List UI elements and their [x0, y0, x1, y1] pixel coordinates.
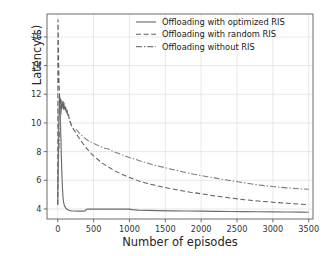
- svg-text:4: 4: [36, 204, 41, 214]
- figure-container: 050010001500200025003000350046810121416 …: [0, 0, 328, 256]
- chart-canvas: 050010001500200025003000350046810121416 …: [0, 0, 328, 256]
- svg-text:3000: 3000: [262, 224, 283, 234]
- svg-text:8: 8: [36, 147, 41, 157]
- svg-text:2500: 2500: [227, 224, 248, 234]
- svg-text:1500: 1500: [155, 224, 176, 234]
- series-line-2: [58, 101, 309, 189]
- svg-text:500: 500: [86, 224, 102, 234]
- svg-text:3500: 3500: [298, 224, 319, 234]
- svg-text:0: 0: [55, 224, 60, 234]
- tick-labels: 050010001500200025003000350046810121416: [31, 32, 319, 234]
- legend-label-2: Offloading without RIS: [162, 42, 255, 52]
- y-axis-label: Latency(s): [30, 0, 44, 120]
- legend-label-1: Offloading with random RIS: [162, 29, 276, 39]
- series-line-0: [58, 96, 309, 213]
- svg-text:2000: 2000: [191, 224, 212, 234]
- svg-text:1000: 1000: [119, 224, 140, 234]
- legend: Offloading with optimized RISOffloading …: [136, 17, 285, 52]
- legend-label-0: Offloading with optimized RIS: [162, 17, 285, 27]
- tick-marks: [44, 37, 309, 222]
- x-axis-label: Number of episodes: [47, 235, 313, 249]
- svg-text:6: 6: [36, 175, 41, 185]
